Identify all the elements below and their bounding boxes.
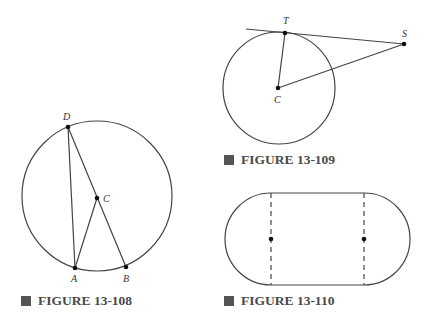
caption-text: FIGURE 13-110 (241, 293, 334, 309)
label-C: C (103, 193, 110, 204)
point-C (276, 86, 281, 91)
caption-marker-icon (224, 155, 234, 165)
caption-figure-13-109: FIGURE 13-109 (224, 152, 335, 168)
caption-marker-icon (224, 296, 234, 306)
segment-CS (278, 44, 404, 88)
caption-figure-13-110: FIGURE 13-110 (224, 293, 334, 309)
tangent-line (246, 29, 404, 44)
figure-13-110-diagram (225, 193, 410, 285)
figure-13-109-diagram (223, 29, 404, 144)
point-D (66, 125, 71, 130)
caption-text: FIGURE 13-109 (241, 152, 335, 168)
figure-13-110-points (269, 237, 367, 242)
caption-marker-icon (21, 296, 31, 306)
point-A (73, 266, 78, 271)
segment-TC (278, 33, 285, 88)
segment-CA (75, 198, 97, 268)
label-A: A (70, 273, 78, 284)
caption-text: FIGURE 13-108 (38, 293, 132, 309)
label-D: D (62, 111, 71, 122)
label-B: B (123, 273, 129, 284)
center-left (269, 237, 274, 242)
point-B (124, 265, 129, 270)
stadium-shape (225, 193, 410, 285)
point-S (402, 42, 407, 47)
segment-DA (68, 127, 75, 268)
point-C (95, 196, 100, 201)
figures-canvas: D C A B T S C (0, 0, 429, 326)
label-T: T (283, 15, 290, 26)
point-T (283, 31, 288, 36)
label-S: S (402, 28, 407, 39)
center-right (362, 237, 367, 242)
label-C: C (274, 94, 281, 105)
caption-figure-13-108: FIGURE 13-108 (21, 293, 132, 309)
